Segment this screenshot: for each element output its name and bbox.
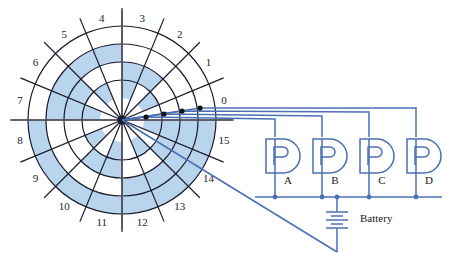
sector-label-5: 5 (61, 28, 67, 40)
encoder-diagram: 0123456789101112131415 ABCD Battery (0, 0, 450, 266)
lamp-C[interactable] (360, 139, 394, 197)
lamp-group[interactable] (266, 139, 441, 197)
lamp-label-A: A (284, 174, 292, 186)
lamp-envelope (266, 139, 300, 173)
lamp-labels: ABCD (284, 174, 433, 186)
lamp-label-D: D (425, 174, 433, 186)
sector-label-1: 1 (206, 56, 212, 68)
brush-contact-B[interactable] (161, 111, 166, 116)
junction-dot (367, 195, 372, 200)
sector-label-15: 15 (219, 134, 231, 146)
sector-label-6: 6 (33, 56, 39, 68)
battery-symbol (326, 197, 348, 252)
sector-label-2: 2 (177, 28, 183, 40)
sector-label-9: 9 (33, 172, 39, 184)
sector-label-3: 3 (140, 12, 146, 24)
lamp-envelope (360, 139, 394, 173)
figure-canvas: 0123456789101112131415 ABCD Battery (0, 0, 450, 266)
brush-contact-A[interactable] (143, 114, 148, 119)
sector-label-4: 4 (99, 12, 105, 24)
sector-label-11: 11 (96, 216, 107, 228)
junction-dot (414, 195, 419, 200)
lamp-filament (368, 147, 382, 165)
sector-label-8: 8 (17, 134, 23, 146)
lamp-label-B: B (331, 174, 338, 186)
lamp-envelope (407, 139, 441, 173)
lamp-filament (321, 147, 335, 165)
lamp-label-C: C (378, 174, 385, 186)
lamp-filament (415, 147, 429, 165)
junction-dot (273, 195, 278, 200)
sector-label-7: 7 (17, 94, 23, 106)
junction-dot (320, 195, 325, 200)
battery-label: Battery (360, 212, 393, 224)
sector-label-13: 13 (174, 200, 186, 212)
lamp-D[interactable] (407, 139, 441, 197)
brush-contact-C[interactable] (179, 108, 184, 113)
sector-label-12: 12 (137, 216, 148, 228)
brush-contact-D[interactable] (197, 105, 202, 110)
sector-label-10: 10 (59, 200, 71, 212)
lamp-filament (274, 147, 288, 165)
sector-label-0: 0 (221, 94, 227, 106)
lamp-A[interactable] (266, 139, 300, 197)
lamp-B[interactable] (313, 139, 347, 197)
lamp-envelope (313, 139, 347, 173)
